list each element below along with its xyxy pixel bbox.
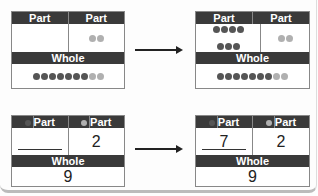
part-1-cell[interactable] [12, 128, 68, 155]
parts-header: PartPart [12, 116, 124, 128]
arrow-right-icon [135, 148, 181, 150]
counter-icon [286, 35, 293, 42]
whole-header: Whole [196, 155, 309, 167]
counter-icon [97, 73, 104, 80]
counter-icon [281, 73, 288, 80]
parts-header: PartPart [12, 12, 124, 24]
parts-header: PartPart [196, 116, 309, 128]
whole-value: 9 [64, 168, 73, 186]
part-2-cell [260, 24, 309, 52]
whole-cell [12, 64, 124, 88]
counter-icon [237, 26, 244, 33]
light-counter-icon [81, 120, 87, 126]
part-1-answer: 7 [202, 133, 246, 150]
part-label: Part [12, 12, 68, 24]
arrow-right-icon [135, 49, 181, 51]
parts-header: PartPart [196, 12, 309, 24]
counter-icon [97, 35, 104, 42]
counter-icon [213, 26, 220, 33]
part-2-cell: 2 [252, 128, 309, 155]
counter-icon [217, 43, 224, 50]
part-2-cell [68, 24, 125, 52]
dark-counter-icon [209, 120, 215, 126]
counter-icon [249, 73, 256, 80]
whole-label: Whole [12, 52, 124, 64]
part-1-cell [12, 24, 68, 52]
part-whole-model-top-left: PartPart Whole [11, 11, 125, 89]
counter-icon [221, 26, 228, 33]
part-2-value: 2 [277, 133, 286, 151]
part-label: Part [68, 12, 125, 24]
part-label: Part [33, 116, 55, 128]
whole-cell: 9 [196, 167, 309, 186]
counter-icon [257, 73, 264, 80]
whole-header: Whole [12, 52, 124, 64]
part-label: Part [196, 12, 252, 24]
whole-label: Whole [196, 52, 309, 64]
counter-icon [217, 73, 224, 80]
counter-icon [89, 73, 96, 80]
light-counter-icon [266, 120, 272, 126]
part-1-cell [196, 24, 260, 52]
whole-label: Whole [196, 155, 309, 167]
part-2-value: 2 [92, 133, 101, 151]
dark-counter-icon [25, 120, 31, 126]
counter-icon [225, 73, 232, 80]
part-whole-model-bottom-left: PartPart 2 Whole 9 [11, 115, 125, 187]
whole-header: Whole [196, 52, 309, 64]
whole-cell: 9 [12, 167, 124, 186]
whole-header: Whole [12, 155, 124, 167]
counter-icon [273, 73, 280, 80]
whole-value: 9 [248, 168, 257, 186]
part-whole-model-bottom-right: PartPart 7 2 Whole 9 [195, 115, 310, 187]
counter-icon [33, 73, 40, 80]
counter-icon [233, 43, 240, 50]
counter-icon [57, 73, 64, 80]
part-1-cell: 7 [196, 128, 252, 155]
part-label: Part [217, 116, 239, 128]
counter-icon [241, 73, 248, 80]
counter-icon [89, 35, 96, 42]
part-label: Part [252, 12, 309, 24]
counter-icon [49, 73, 56, 80]
counter-icon [81, 73, 88, 80]
whole-cell [196, 64, 309, 88]
counter-icon [233, 73, 240, 80]
counter-icon [65, 73, 72, 80]
part-1-answer-blank[interactable] [18, 133, 62, 150]
counter-icon [41, 73, 48, 80]
part-whole-model-top-right: PartPart Whole [195, 11, 310, 89]
part-label: Part [89, 116, 111, 128]
part-label: Part [274, 116, 296, 128]
whole-label: Whole [12, 155, 124, 167]
counter-icon [225, 43, 232, 50]
counter-icon [265, 73, 272, 80]
part-2-cell: 2 [68, 128, 125, 155]
counter-icon [278, 35, 285, 42]
counter-icon [73, 73, 80, 80]
counter-icon [229, 26, 236, 33]
